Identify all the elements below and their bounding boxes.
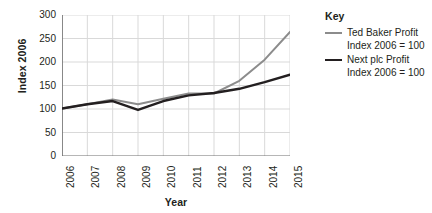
x-tick-label: 2009 [142,166,152,188]
line-chart-svg [62,15,290,156]
x-tick-label: 2006 [66,166,76,188]
x-tick-label: 2007 [91,166,101,188]
x-tick-label: 2013 [243,166,253,188]
legend-series-sublabel: Index 2006 = 100 [347,40,431,53]
x-axis-title: Year [62,196,290,208]
y-tick-label: 100 [22,104,56,114]
y-axis-tick-labels: 050100150200250300 [20,15,56,156]
legend: Key Ted Baker ProfitIndex 2006 = 100Next… [325,10,431,81]
x-tick-label: 2010 [167,166,177,188]
y-tick-label: 150 [22,81,56,91]
y-tick-label: 50 [22,128,56,138]
y-tick-label: 300 [22,10,56,20]
legend-series-name: Next plc Profit [347,54,431,67]
chart-figure: Index 2006 050100150200250300 2006200720… [0,0,432,213]
x-axis-tick-labels: 2006200720082009201020112012201320142015 [62,158,290,198]
legend-swatch-line-icon [325,59,342,61]
legend-series-sublabel: Index 2006 = 100 [347,67,431,80]
plot-area [62,15,290,156]
legend-series-name: Ted Baker Profit [347,27,431,40]
y-tick-label: 250 [22,34,56,44]
legend-item: Next plc ProfitIndex 2006 = 100 [325,54,431,79]
x-tick-label: 2015 [294,166,304,188]
y-tick-label: 0 [22,151,56,161]
series-line-1 [62,75,290,110]
x-tick-label: 2012 [218,166,228,188]
y-tick-label: 200 [22,57,56,67]
x-tick-label: 2014 [269,166,279,188]
x-tick-label: 2008 [117,166,127,188]
legend-items: Ted Baker ProfitIndex 2006 = 100Next plc… [325,27,431,79]
legend-title: Key [325,10,431,22]
x-tick-label: 2011 [193,166,203,188]
legend-item: Ted Baker ProfitIndex 2006 = 100 [325,27,431,52]
legend-swatch-line-icon [325,32,342,34]
